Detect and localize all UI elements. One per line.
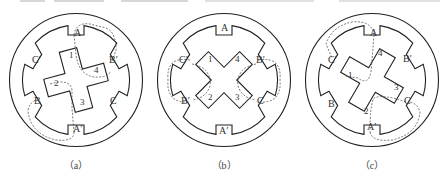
svg-text:1: 1 <box>348 70 353 80</box>
svg-text:4: 4 <box>378 48 383 58</box>
svg-text:A: A <box>221 22 229 33</box>
svg-text:4: 4 <box>235 54 240 64</box>
panel-b: A B′ C A′ B′ C′ 1 2 3 4 <box>158 14 291 147</box>
svg-text:B′: B′ <box>256 54 265 65</box>
caption-a: （a） <box>56 157 96 172</box>
svg-text:4: 4 <box>94 65 99 75</box>
svg-text:1: 1 <box>69 50 74 60</box>
svg-text:C: C <box>404 95 411 106</box>
pole-label-B: B <box>34 95 41 106</box>
svg-text:A′: A′ <box>367 121 376 132</box>
svg-text:C: C <box>257 95 264 106</box>
svg-text:B′: B′ <box>403 53 412 64</box>
caption-c: （c） <box>352 157 392 172</box>
svg-text:3: 3 <box>394 82 399 92</box>
svg-text:C′: C′ <box>328 54 337 65</box>
svg-text:A: A <box>370 27 378 38</box>
panel-c: A B′ C A′ B C′ 1 2 3 4 <box>306 14 439 147</box>
pole-label-B-prime: B′ <box>109 54 118 65</box>
svg-text:A′: A′ <box>219 125 228 136</box>
panel-a: A B′ C A′ B C′ 1 2 3 4 <box>10 14 143 147</box>
svg-text:B′: B′ <box>181 95 190 106</box>
svg-text:2: 2 <box>54 78 59 88</box>
caption-b: （b） <box>204 157 244 172</box>
svg-text:1: 1 <box>208 54 213 64</box>
svg-text:3: 3 <box>235 92 240 102</box>
pole-label-C: C <box>110 95 117 106</box>
svg-text:3: 3 <box>80 97 85 107</box>
pole-label-A-prime: A′ <box>73 123 82 134</box>
pole-label-C-prime: C′ <box>32 54 41 65</box>
svg-text:2: 2 <box>208 92 213 102</box>
stepper-motor-diagram: A B′ C A′ B C′ 1 2 3 4 A B′ C A′ B′ C′ 1… <box>0 0 448 176</box>
svg-text:B: B <box>328 98 335 109</box>
svg-text:C′: C′ <box>179 54 188 65</box>
svg-text:2: 2 <box>364 106 369 116</box>
pole-label-A: A <box>74 27 82 38</box>
